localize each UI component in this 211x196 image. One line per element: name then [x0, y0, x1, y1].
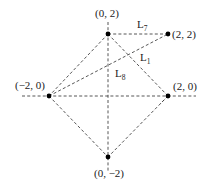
point-bottom [106, 155, 111, 160]
label-top: (0, 2) [95, 7, 119, 20]
diagram-canvas: (0, 2) (2, 2) (−2, 0) (2, 0) (0, −2) L7 … [0, 0, 211, 196]
label-bottom: (0, −2) [94, 167, 124, 180]
label-right: (2, 0) [173, 80, 197, 93]
label-L7: L7 [137, 18, 148, 33]
diagram-svg: (0, 2) (2, 2) (−2, 0) (2, 0) (0, −2) L7 … [0, 0, 211, 196]
point-topright [166, 32, 171, 37]
label-left: (−2, 0) [15, 79, 45, 92]
point-top [106, 32, 111, 37]
edge-right-bottom [108, 96, 168, 157]
label-L8: L8 [115, 67, 126, 82]
point-left [47, 94, 52, 99]
edge-left-bottom [49, 96, 108, 157]
edge-top-left [49, 34, 108, 96]
label-L1: L1 [140, 51, 151, 66]
point-right [166, 94, 171, 99]
label-topright: (2, 2) [172, 28, 196, 41]
edge-L1 [108, 34, 168, 96]
